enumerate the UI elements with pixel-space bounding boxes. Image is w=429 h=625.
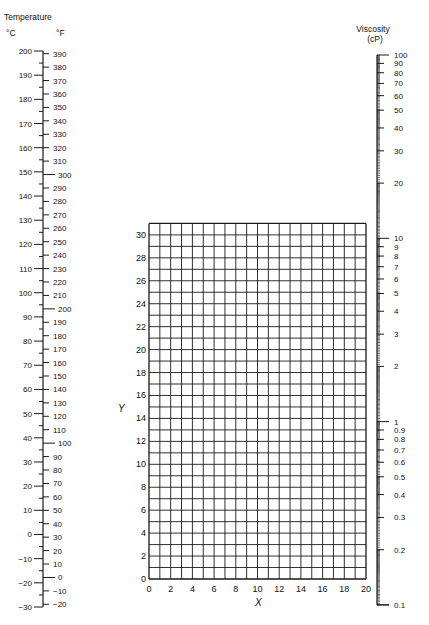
x-tick-label: 0 xyxy=(146,584,151,594)
celsius-tick-label: −20 xyxy=(18,579,32,588)
celsius-tick-label: 50 xyxy=(23,410,32,419)
y-tick-label: 8 xyxy=(141,482,146,492)
fahrenheit-tick-label: 170 xyxy=(53,345,67,354)
celsius-tick-label: 80 xyxy=(23,337,32,346)
fahrenheit-tick-label: 350 xyxy=(53,103,67,112)
fahrenheit-tick-label: 20 xyxy=(53,547,62,556)
viscosity-tick-label: 0.9 xyxy=(394,426,406,435)
fahrenheit-tick-label: 110 xyxy=(53,426,66,435)
fahrenheit-tick-label: 70 xyxy=(53,479,62,488)
y-tick-label: 10 xyxy=(136,459,146,469)
fahrenheit-tick-label: 290 xyxy=(53,184,67,193)
fahrenheit-tick-label: 60 xyxy=(53,493,62,502)
fahrenheit-tick-label: 280 xyxy=(53,197,67,206)
viscosity-tick-label: 0.1 xyxy=(394,601,406,610)
fahrenheit-tick-label: 360 xyxy=(53,90,67,99)
fahrenheit-tick-label: 230 xyxy=(53,265,67,274)
x-tick-label: 16 xyxy=(318,584,328,594)
y-tick-label: 24 xyxy=(136,299,146,309)
celsius-tick-label: 170 xyxy=(19,120,33,129)
viscosity-tick-label: 4 xyxy=(394,307,399,316)
viscosity-tick-label: 90 xyxy=(394,59,403,68)
viscosity-tick-label: 80 xyxy=(394,69,403,78)
temperature-title: Temperature xyxy=(4,12,52,22)
fahrenheit-tick-label: 0 xyxy=(58,573,63,582)
fahrenheit-tick-label: 260 xyxy=(53,224,67,233)
fahrenheit-tick-label: 10 xyxy=(53,560,62,569)
fahrenheit-tick-label: 370 xyxy=(53,77,67,86)
x-tick-label: 6 xyxy=(212,584,217,594)
viscosity-tick-label: 0.4 xyxy=(394,491,406,500)
fahrenheit-tick-label: 270 xyxy=(53,211,67,220)
celsius-tick-label: 90 xyxy=(23,313,32,322)
y-tick-label: 4 xyxy=(141,528,146,538)
fahrenheit-tick-label: 30 xyxy=(53,533,62,542)
fahrenheit-tick-label: 200 xyxy=(58,305,72,314)
y-tick-label: 22 xyxy=(136,322,146,332)
viscosity-tick-label: 8 xyxy=(394,252,399,261)
celsius-tick-label: −10 xyxy=(18,555,32,564)
viscosity-tick-label: 0.5 xyxy=(394,473,406,482)
fahrenheit-tick-label: 310 xyxy=(53,157,67,166)
celsius-tick-label: 140 xyxy=(19,192,33,201)
viscosity-tick-label: 0.6 xyxy=(394,458,406,467)
celsius-tick-label: 100 xyxy=(19,289,33,298)
fahrenheit-tick-label: 180 xyxy=(53,332,67,341)
viscosity-tick-label: 6 xyxy=(394,275,399,284)
y-tick-label: 18 xyxy=(136,368,146,378)
fahrenheit-tick-label: 300 xyxy=(58,171,72,180)
fahrenheit-tick-label: 50 xyxy=(53,506,62,515)
viscosity-tick-label: 0.8 xyxy=(394,435,406,444)
y-tick-label: 6 xyxy=(141,505,146,515)
fahrenheit-tick-label: 100 xyxy=(58,439,72,448)
y-tick-label: 12 xyxy=(136,436,146,446)
viscosity-tick-label: 5 xyxy=(394,289,399,298)
viscosity-tick-label: 0.7 xyxy=(394,446,406,455)
celsius-tick-label: 190 xyxy=(19,71,33,80)
x-tick-label: 10 xyxy=(252,584,262,594)
viscosity-tick-label: 0.2 xyxy=(394,546,406,555)
y-tick-label: 30 xyxy=(136,230,146,240)
celsius-tick-label: 200 xyxy=(19,47,33,56)
fahrenheit-tick-label: 90 xyxy=(53,453,62,462)
viscosity-tick-label: 2 xyxy=(394,362,399,371)
viscosity-tick-label: 20 xyxy=(394,179,403,188)
viscosity-tick-label: 30 xyxy=(394,147,403,156)
viscosity-tick-label: 50 xyxy=(394,106,403,115)
xy-grid: 0246810121416182002468101214161820222426… xyxy=(136,223,371,594)
viscosity-tick-label: 70 xyxy=(394,79,403,88)
celsius-tick-label: 10 xyxy=(23,506,32,515)
celsius-tick-label: 30 xyxy=(23,458,32,467)
celsius-tick-label: 0 xyxy=(28,530,33,539)
fahrenheit-tick-label: 240 xyxy=(53,251,67,260)
celsius-tick-label: 160 xyxy=(19,144,33,153)
viscosity-axis: 1009080706050403020109876543210.90.80.70… xyxy=(377,51,408,610)
fahrenheit-tick-label: 250 xyxy=(53,238,67,247)
x-tick-label: 2 xyxy=(168,584,173,594)
viscosity-tick-label: 40 xyxy=(394,124,403,133)
fahrenheit-tick-label: 140 xyxy=(53,385,67,394)
x-tick-label: 20 xyxy=(361,584,371,594)
celsius-tick-label: 40 xyxy=(23,434,32,443)
viscosity-unit: (cP) xyxy=(367,34,383,44)
nomograph-chart: Temperature °C °F Viscosity (cP) Y X 200… xyxy=(0,0,429,625)
x-tick-label: 12 xyxy=(274,584,284,594)
fahrenheit-tick-label: 80 xyxy=(53,466,62,475)
temperature-axis: 2001901801701601501401301201101009080706… xyxy=(18,47,71,612)
fahrenheit-tick-label: 210 xyxy=(53,291,67,300)
viscosity-tick-label: 3 xyxy=(394,330,399,339)
y-tick-label: 26 xyxy=(136,276,146,286)
viscosity-tick-label: 9 xyxy=(394,243,399,252)
celsius-tick-label: 20 xyxy=(23,482,32,491)
x-tick-label: 8 xyxy=(233,584,238,594)
celsius-tick-label: 60 xyxy=(23,385,32,394)
viscosity-tick-label: 0.3 xyxy=(394,513,406,522)
celsius-tick-label: −30 xyxy=(18,603,32,612)
y-tick-label: 28 xyxy=(136,253,146,263)
celsius-tick-label: 120 xyxy=(19,240,33,249)
y-tick-label: 0 xyxy=(141,574,146,584)
fahrenheit-tick-label: −20 xyxy=(53,600,67,609)
celsius-unit: °C xyxy=(6,28,16,38)
viscosity-tick-label: 7 xyxy=(394,263,399,272)
fahrenheit-tick-label: 330 xyxy=(53,130,67,139)
